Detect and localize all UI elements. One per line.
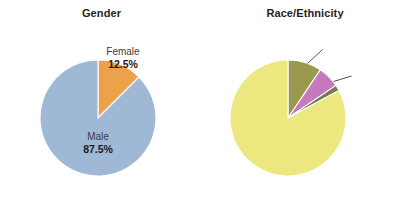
chart-panel-race-ethnicity: Race/Ethnicity Black 9.4% Hispanic 6.1% …	[203, 0, 407, 209]
leader-line-other	[334, 76, 352, 82]
pie-gender-slices	[40, 60, 156, 176]
pie-chart-figure: Gender Female 12.5% Male 87.5% Race/Ethn…	[0, 0, 407, 209]
leader-line-hispanic	[308, 50, 323, 64]
pie-gender	[0, 0, 203, 209]
pie-race-ethnicity	[203, 0, 407, 209]
pie-slice-male[interactable]	[40, 60, 156, 176]
pie-race-slices	[230, 60, 346, 176]
chart-panel-gender: Gender Female 12.5% Male 87.5%	[0, 0, 203, 209]
